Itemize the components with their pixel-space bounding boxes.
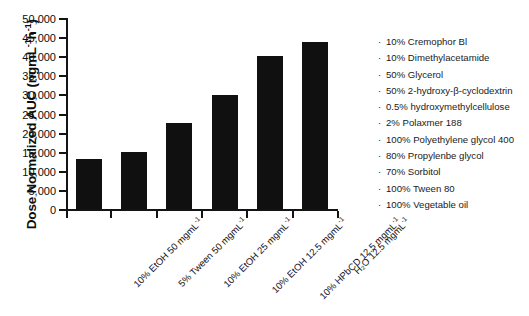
bar bbox=[76, 159, 102, 209]
legend-item: ·2% Polaxmer 188 bbox=[378, 115, 528, 131]
bullet-icon: · bbox=[378, 148, 386, 164]
y-axis-tick: 35,000 bbox=[59, 75, 66, 77]
y-axis-tick: 50,000 bbox=[59, 18, 66, 20]
legend-item: ·100% Polyethylene glycol 400 bbox=[378, 132, 528, 148]
legend-item-label: 100% Vegetable oil bbox=[386, 199, 468, 210]
y-axis-tick-label: 20,000 bbox=[22, 128, 56, 140]
legend-item: ·80% Propylenbe glycol bbox=[378, 148, 528, 164]
legend-item: ·10% Cremophor Bl bbox=[378, 34, 528, 50]
legend-item: ·100% Vegetable oil bbox=[378, 197, 528, 213]
y-axis-tick: 10,000 bbox=[59, 171, 66, 173]
legend-item: ·0.5% hydroxymethylcellulose bbox=[378, 99, 528, 115]
plot-frame: 05,00010,00015,00020,00025,00030,00035,0… bbox=[66, 18, 338, 211]
legend-item-label: 0.5% hydroxymethylcellulose bbox=[386, 101, 510, 112]
excipient-legend-list: ·10% Cremophor Bl·10% Dimethylacetamide·… bbox=[378, 34, 528, 213]
bullet-icon: · bbox=[378, 34, 386, 50]
y-axis-tick-label: 50,000 bbox=[22, 13, 56, 25]
bullet-icon: · bbox=[378, 50, 386, 66]
legend-item-label: 10% Dimethylacetamide bbox=[386, 52, 489, 63]
bullet-icon: · bbox=[378, 99, 386, 115]
y-axis-tick-label: 10,000 bbox=[22, 166, 56, 178]
y-axis-tick-label: 15,000 bbox=[22, 147, 56, 159]
legend-item: ·100% Tween 80 bbox=[378, 181, 528, 197]
legend-item-label: 10% Cremophor Bl bbox=[386, 36, 467, 47]
bar-chart-figure: Dose Normalized AUC (ngmL-1h-1) 05,00010… bbox=[0, 0, 529, 316]
legend-item-label: 80% Propylenbe glycol bbox=[386, 150, 484, 161]
bullet-icon: · bbox=[378, 132, 386, 148]
legend-item: ·50% 2-hydroxy-β-cyclodextrin bbox=[378, 83, 528, 99]
bar bbox=[121, 152, 147, 209]
legend-item-label: 2% Polaxmer 188 bbox=[386, 117, 462, 128]
legend-item-label: 100% Polyethylene glycol 400 bbox=[386, 134, 514, 145]
y-axis-tick-label: 30,000 bbox=[22, 89, 56, 101]
y-axis-tick-label: 45,000 bbox=[22, 32, 56, 44]
legend-item: ·10% Dimethylacetamide bbox=[378, 50, 528, 66]
legend-item-label: 50% 2-hydroxy-β-cyclodextrin bbox=[386, 85, 513, 96]
y-axis-tick: 5,000 bbox=[59, 190, 66, 192]
bar bbox=[212, 95, 238, 209]
y-axis-tick-label: 5,000 bbox=[28, 185, 56, 197]
y-axis-tick: 30,000 bbox=[59, 94, 66, 96]
legend-item-label: 70% Sorbitol bbox=[386, 166, 440, 177]
y-axis-tick-label: 40,000 bbox=[22, 51, 56, 63]
y-axis-tick: 40,000 bbox=[59, 56, 66, 58]
bar bbox=[166, 123, 192, 209]
x-axis-tick-labels: 10% EtOH 50 mgmL-15% Tween 50 mgmL-110% … bbox=[66, 213, 366, 313]
y-axis-tick: 0 bbox=[59, 209, 66, 211]
bullet-icon: · bbox=[378, 164, 386, 180]
bullet-icon: · bbox=[378, 83, 386, 99]
legend-item-label: 100% Tween 80 bbox=[386, 183, 455, 194]
x-axis-tick-label: H₂O 12.5 mgmL-1 bbox=[351, 215, 412, 276]
bullet-icon: · bbox=[378, 197, 386, 213]
y-axis-line bbox=[66, 18, 68, 211]
bullet-icon: · bbox=[378, 181, 386, 197]
bar bbox=[257, 56, 283, 209]
y-axis-tick: 15,000 bbox=[59, 152, 66, 154]
legend-item-label: 50% Glycerol bbox=[386, 69, 443, 80]
y-axis-tick-label: 35,000 bbox=[22, 70, 56, 82]
y-axis-tick: 45,000 bbox=[59, 37, 66, 39]
legend-item: ·70% Sorbitol bbox=[378, 164, 528, 180]
y-axis-tick: 25,000 bbox=[59, 114, 66, 116]
bullet-icon: · bbox=[378, 67, 386, 83]
plot-area: 05,00010,00015,00020,00025,00030,00035,0… bbox=[66, 18, 338, 211]
y-axis-tick-label: 0 bbox=[50, 204, 56, 216]
bar bbox=[302, 42, 328, 209]
y-axis-tick-label: 25,000 bbox=[22, 109, 56, 121]
bullet-icon: · bbox=[378, 115, 386, 131]
legend-item: ·50% Glycerol bbox=[378, 67, 528, 83]
y-axis-tick: 20,000 bbox=[59, 133, 66, 135]
